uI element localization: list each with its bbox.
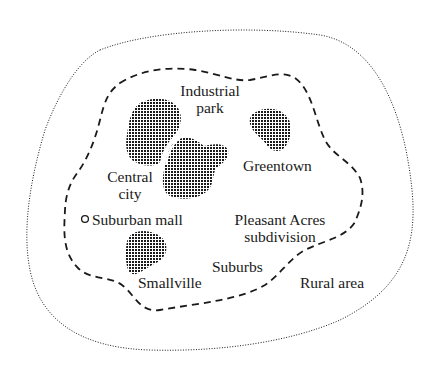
label-smallville: Smallville: [138, 274, 202, 291]
label-industrial-park-line2: park: [170, 99, 250, 116]
suburban-mall-marker-icon: [82, 216, 89, 223]
label-central-city: Central city: [100, 168, 160, 202]
smallville-area: [126, 231, 166, 274]
label-industrial-park-line1: Industrial: [170, 82, 250, 99]
label-greentown: Greentown: [243, 157, 312, 174]
label-suburbs: Suburbs: [212, 258, 263, 275]
label-pleasant-acres: Pleasant Acres subdivision: [225, 211, 335, 245]
rural-area-boundary: [27, 30, 413, 350]
label-pleasant-acres-line2: subdivision: [225, 228, 335, 245]
label-pleasant-acres-line1: Pleasant Acres: [225, 211, 335, 228]
metro-area-diagram: [0, 0, 436, 383]
greentown-area: [250, 109, 291, 151]
label-industrial-park: Industrial park: [170, 82, 250, 116]
label-rural-area: Rural area: [300, 274, 364, 291]
label-central-city-line2: city: [100, 185, 160, 202]
label-suburban-mall: Suburban mall: [92, 211, 183, 228]
label-central-city-line1: Central: [100, 168, 160, 185]
